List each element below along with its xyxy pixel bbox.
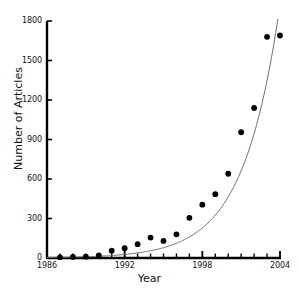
data-point (199, 202, 205, 208)
data-point (161, 238, 167, 244)
x-tick-label: 1986 (30, 261, 64, 270)
data-point (57, 254, 63, 260)
chart-figure: 0300600900120015001800 1986199219982004 … (0, 0, 299, 291)
data-point (212, 191, 218, 197)
data-point (264, 34, 270, 40)
data-point (122, 245, 128, 251)
x-tick-label: 1992 (108, 261, 142, 270)
axes (46, 21, 281, 258)
data-point (83, 254, 89, 260)
x-tick-label: 2004 (263, 261, 297, 270)
x-axis-title: Year (0, 272, 299, 285)
y-tick-label: 300 (14, 214, 42, 223)
data-point (238, 129, 244, 135)
data-point (148, 235, 154, 241)
data-point-group (57, 33, 283, 261)
data-point (186, 215, 192, 221)
data-point (174, 231, 180, 237)
y-axis-title: Number of Articles (12, 59, 25, 179)
data-point (135, 241, 141, 247)
data-point (251, 105, 257, 111)
data-point (70, 254, 76, 260)
y-tick-label: 1800 (14, 16, 42, 25)
data-point (96, 252, 102, 258)
trend-curve (47, 19, 278, 258)
chart-canvas (0, 0, 299, 291)
data-point (109, 248, 115, 254)
data-point (277, 33, 283, 39)
x-tick-label: 1998 (185, 261, 219, 270)
data-point (225, 171, 231, 177)
